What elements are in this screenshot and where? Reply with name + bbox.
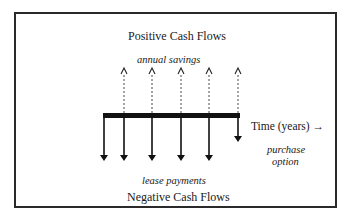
negative-cash-flows-title: Negative Cash Flows [127,190,230,205]
inflow-arrowhead-icon [235,68,241,74]
inflow-arrowhead-icon [149,68,155,74]
purchase-option-label-line1: purchase [267,144,305,155]
outflow-arrowhead-icon [234,136,242,142]
time-axis-label: Time (years) → [251,120,324,132]
outflow-arrowhead-icon [148,155,156,161]
lease-payments-label: lease payments [142,175,206,186]
outflow-arrowhead-icon [120,155,128,161]
outflow-arrowhead-icon [205,155,213,161]
outflow-arrowhead-icon [100,155,108,161]
outflow-arrowhead-icon [177,155,185,161]
inflow-arrowhead-icon [121,68,127,74]
purchase-option-label-line2: option [272,156,299,167]
inflow-arrowhead-icon [206,68,212,74]
cash-flow-timeline [0,0,350,219]
inflow-arrowhead-icon [178,68,184,74]
